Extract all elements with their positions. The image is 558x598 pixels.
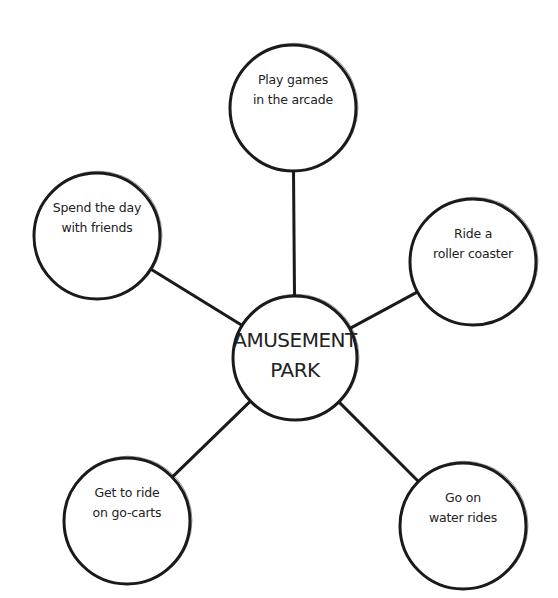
node-arcade-circle <box>230 45 356 171</box>
node-water-rides-circle <box>400 463 526 589</box>
connector-go-carts <box>172 401 250 477</box>
node-water-rides-label-line: Go on <box>445 490 481 505</box>
node-friends: Spend the daywith friends <box>34 171 162 299</box>
node-coaster-label-line: Ride a <box>454 226 492 241</box>
center-amusement-park-label-line: PARK <box>270 358 321 382</box>
connector-water-rides <box>339 402 419 482</box>
connector-friends <box>151 269 243 325</box>
node-arcade-label-line: in the arcade <box>253 92 333 107</box>
node-water-rides-label-line: water rides <box>429 510 497 525</box>
node-arcade-label-line: Play games <box>258 72 328 87</box>
center-amusement-park-label-line: AMUSEMENT <box>233 328 358 352</box>
node-go-carts-label-line: on go-carts <box>93 505 162 520</box>
node-coaster: Ride aroller coaster <box>410 197 538 325</box>
node-coaster-circle <box>410 199 536 325</box>
node-water-rides: Go onwater rides <box>400 461 528 589</box>
bubble-map-diagram: Play gamesin the arcadeSpend the daywith… <box>0 0 558 598</box>
node-go-carts-label-line: Get to ride <box>95 485 160 500</box>
connector-coaster <box>350 292 418 329</box>
node-arcade: Play gamesin the arcade <box>230 43 358 171</box>
node-friends-circle <box>34 173 160 299</box>
node-go-carts-circle <box>64 458 190 584</box>
node-friends-label-line: Spend the day <box>53 200 142 215</box>
center-node: AMUSEMENTPARK <box>233 294 359 420</box>
node-friends-label-line: with friends <box>61 220 132 235</box>
node-coaster-label-line: roller coaster <box>433 246 514 261</box>
center-amusement-park: AMUSEMENTPARK <box>233 294 359 420</box>
connector-arcade <box>294 171 295 296</box>
